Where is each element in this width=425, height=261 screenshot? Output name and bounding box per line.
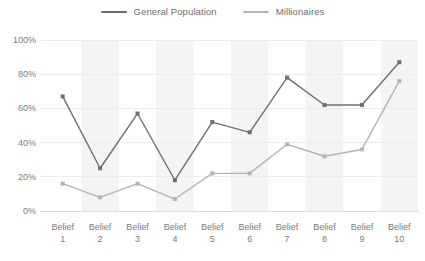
x-axis-tick-label: Belief6: [238, 221, 261, 245]
x-axis-tick-label: Belief3: [126, 221, 149, 245]
x-axis-tick-label: Belief2: [89, 221, 112, 245]
x-axis-tick-label: Belief8: [313, 221, 336, 245]
x-axis-tick-label: Belief10: [388, 221, 411, 245]
x-axis-labels: Belief1Belief2Belief3Belief4Belief5Belie…: [0, 0, 425, 261]
x-axis-tick-label: Belief5: [201, 221, 224, 245]
line-chart: General Population Millionaires 0%20%40%…: [0, 0, 425, 261]
x-axis-tick-label: Belief4: [164, 221, 187, 245]
x-axis-tick-label: Belief7: [276, 221, 299, 245]
x-axis-tick-label: Belief9: [351, 221, 374, 245]
plot-area: 0%20%40%60%80%100% Belief1Belief2Belief3…: [0, 0, 425, 261]
x-axis-tick-label: Belief1: [51, 221, 74, 245]
